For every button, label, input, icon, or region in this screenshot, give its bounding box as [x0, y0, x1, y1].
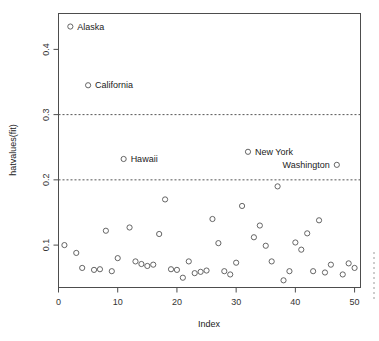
- y-tick-label-0.3: 0.3: [41, 108, 51, 121]
- data-point: [198, 269, 203, 274]
- data-point: [263, 243, 268, 248]
- data-point: [316, 218, 321, 223]
- y-tick-label-0.1: 0.1: [41, 239, 51, 252]
- data-point: [210, 216, 215, 221]
- x-tick-label-0: 0: [56, 297, 61, 307]
- data-point: [127, 225, 132, 230]
- y-axis-ticks-group: 0.10.20.30.4: [41, 43, 59, 251]
- data-point: [145, 263, 150, 268]
- x-tick-label-40: 40: [290, 297, 300, 307]
- data-points-group: [62, 24, 357, 283]
- plot-frame: [59, 14, 361, 288]
- point-label-hawaii: Hawaii: [131, 154, 158, 164]
- data-point: [340, 272, 345, 277]
- data-point: [216, 241, 221, 246]
- data-point: [133, 259, 138, 264]
- point-label-california: California: [95, 80, 133, 90]
- data-point: [186, 259, 191, 264]
- data-point: [299, 247, 304, 252]
- x-axis-ticks-group: 01020304050: [56, 288, 360, 307]
- data-point: [281, 278, 286, 283]
- data-point: [180, 275, 185, 280]
- data-point: [293, 240, 298, 245]
- data-point: [68, 24, 73, 29]
- data-point: [222, 269, 227, 274]
- x-tick-label-50: 50: [350, 297, 360, 307]
- x-tick-label-10: 10: [113, 297, 123, 307]
- x-axis-title: Index: [198, 319, 221, 329]
- data-point: [269, 259, 274, 264]
- hatvalues-scatter-plot: 01020304050 0.10.20.30.4 AlaskaCaliforni…: [0, 0, 379, 341]
- point-label-alaska: Alaska: [77, 22, 104, 32]
- plot-container: 01020304050 0.10.20.30.4 AlaskaCaliforni…: [0, 0, 379, 341]
- x-tick-label-30: 30: [231, 297, 241, 307]
- data-point: [115, 256, 120, 261]
- data-point: [234, 260, 239, 265]
- data-point: [168, 267, 173, 272]
- y-tick-label-0.4: 0.4: [41, 43, 51, 56]
- reference-lines-group: [59, 115, 361, 180]
- data-point: [151, 262, 156, 267]
- data-point: [352, 265, 357, 270]
- data-point: [305, 231, 310, 236]
- data-point: [328, 262, 333, 267]
- data-point: [121, 156, 126, 161]
- data-point: [346, 261, 351, 266]
- data-point: [109, 269, 114, 274]
- data-point: [239, 203, 244, 208]
- y-tick-label-0.2: 0.2: [41, 174, 51, 187]
- data-point: [80, 265, 85, 270]
- data-point: [86, 83, 91, 88]
- data-point: [334, 162, 339, 167]
- data-point: [162, 197, 167, 202]
- data-point: [287, 269, 292, 274]
- data-point: [174, 267, 179, 272]
- data-point: [97, 267, 102, 272]
- data-point: [251, 235, 256, 240]
- x-tick-label-20: 20: [172, 297, 182, 307]
- data-point: [257, 223, 262, 228]
- point-label-washington: Washington: [283, 160, 330, 170]
- data-point: [103, 228, 108, 233]
- data-point: [204, 268, 209, 273]
- data-point: [311, 269, 316, 274]
- y-axis-title: hatvalues(fit): [8, 124, 18, 176]
- data-point: [192, 271, 197, 276]
- data-point: [74, 250, 79, 255]
- data-point: [91, 267, 96, 272]
- data-point: [62, 242, 67, 247]
- data-point: [322, 270, 327, 275]
- data-point: [139, 261, 144, 266]
- data-point: [228, 272, 233, 277]
- data-point: [245, 149, 250, 154]
- data-point: [275, 184, 280, 189]
- point-label-new-york: New York: [255, 147, 294, 157]
- point-labels-group: AlaskaCaliforniaHawaiiNew YorkWashington: [77, 22, 329, 170]
- data-point: [157, 231, 162, 236]
